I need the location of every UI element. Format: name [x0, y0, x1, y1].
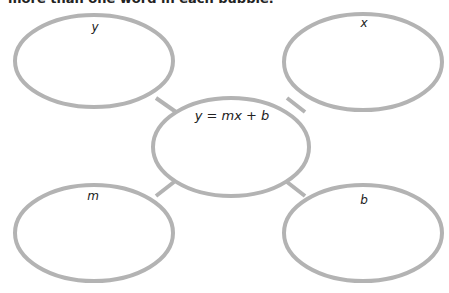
connector-top-left [156, 98, 176, 112]
bubble-label-b: b [360, 193, 368, 207]
center-label: y = mx + b [195, 108, 270, 123]
bubble-label-m: m [87, 189, 99, 203]
connector-bottom-left [156, 182, 174, 196]
concept-web-diagram [0, 0, 449, 293]
bubble-label-x: x [360, 16, 367, 30]
bubble-label-y: y [91, 20, 98, 34]
connector-bottom-right [287, 182, 305, 196]
connector-top-right [287, 98, 305, 112]
